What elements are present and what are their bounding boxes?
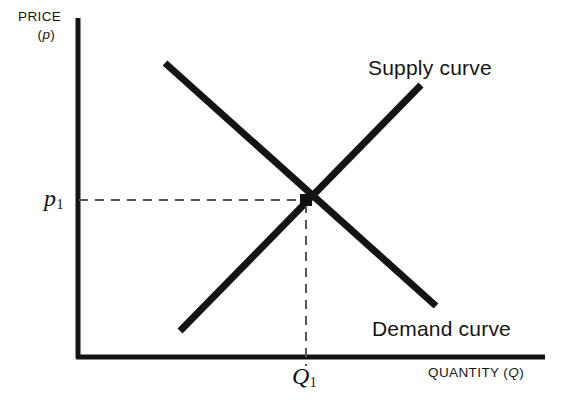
x-axis-title-text: QUANTITY ( xyxy=(428,365,508,380)
y-axis-title-line1: PRICE xyxy=(18,9,61,24)
equilibrium-price-label: p1 xyxy=(44,186,63,210)
y-axis-title: PRICE (p) xyxy=(18,10,61,41)
x-axis-title: QUANTITY (Q) xyxy=(428,366,524,380)
supply-curve xyxy=(180,85,421,331)
supply-demand-diagram: PRICE (p) QUANTITY (Q) Supply curve Dema… xyxy=(0,0,563,411)
y-axis-title-line2: (p) xyxy=(18,28,61,42)
supply-curve-label: Supply curve xyxy=(368,57,492,78)
equilibrium-quantity-label: Q1 xyxy=(292,364,316,388)
x-axis-title-close: ) xyxy=(519,365,524,380)
equilibrium-quantity-variable: Q xyxy=(292,363,309,389)
demand-curve-label: Demand curve xyxy=(372,318,511,339)
equilibrium-point-marker xyxy=(300,194,312,206)
equilibrium-price-subscript: 1 xyxy=(56,197,63,212)
x-axis-variable: Q xyxy=(508,365,519,380)
demand-curve xyxy=(165,63,436,306)
equilibrium-quantity-subscript: 1 xyxy=(310,375,317,390)
equilibrium-price-variable: p xyxy=(44,185,56,211)
